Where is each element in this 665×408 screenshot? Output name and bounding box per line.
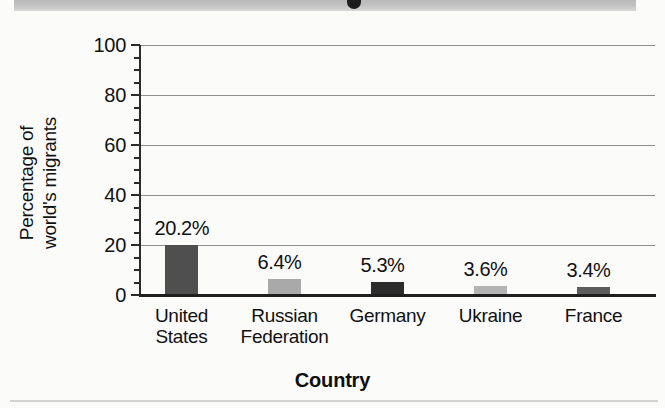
bar-value-label: 5.3% — [361, 255, 405, 275]
x-axis-category-label-line: Germany — [328, 305, 448, 326]
y-axis-tick-major — [131, 194, 140, 196]
y-axis-tick-minor — [134, 82, 140, 84]
y-axis-tick-minor — [134, 219, 140, 221]
y-axis-tick-minor — [134, 132, 140, 134]
y-axis-tick-minor — [134, 232, 140, 234]
y-axis-tick-minor — [134, 257, 140, 259]
y-axis-tick-major — [131, 244, 140, 246]
bar-value-label: 3.6% — [464, 259, 508, 279]
y-axis-tick-label: 80 — [86, 85, 126, 105]
bar[interactable] — [165, 245, 198, 296]
y-axis-tick-minor — [134, 57, 140, 59]
y-axis-tick-label: 100 — [86, 35, 126, 55]
bar-chart: 020406080100 Percentage ofworld's migran… — [0, 0, 665, 408]
y-axis-tick-minor — [134, 107, 140, 109]
x-axis-category-label: Ukraine — [431, 305, 551, 326]
bar[interactable] — [371, 282, 404, 295]
gridline — [140, 95, 655, 96]
y-axis-tick-label: 0 — [86, 285, 126, 305]
x-axis-category-label: RussianFederation — [225, 305, 345, 347]
y-axis-tick-minor — [134, 69, 140, 71]
y-axis-tick-minor — [134, 169, 140, 171]
x-axis-category-label-line: United — [122, 305, 242, 326]
y-axis-tick-minor — [134, 269, 140, 271]
y-axis-tick-minor — [134, 282, 140, 284]
x-axis-category-label-line: Russian — [225, 305, 345, 326]
gridline — [140, 45, 655, 46]
y-axis-tick-minor — [134, 119, 140, 121]
y-axis-tick-label: 60 — [86, 135, 126, 155]
x-axis-category-label: Germany — [328, 305, 448, 326]
y-axis-tick-major — [131, 144, 140, 146]
x-axis-category-label: France — [534, 305, 654, 326]
x-axis-category-label: UnitedStates — [122, 305, 242, 347]
y-axis-tick-labels: 020406080100 — [80, 0, 126, 408]
gridline — [140, 145, 655, 146]
y-axis-title-line: world's migrants — [38, 68, 61, 298]
y-axis-tick-label: 40 — [86, 185, 126, 205]
x-axis-category-label-line: France — [534, 305, 654, 326]
gridline — [140, 245, 655, 246]
y-axis-title: Percentage ofworld's migrants — [15, 68, 61, 298]
bar-value-label: 3.4% — [567, 260, 611, 280]
y-axis-tick-label: 20 — [86, 235, 126, 255]
bar-value-label: 6.4% — [258, 252, 302, 272]
bar-value-label: 20.2% — [155, 218, 210, 238]
x-axis-category-label-line: States — [122, 326, 242, 347]
bar[interactable] — [268, 279, 301, 295]
y-axis-tick-major — [131, 94, 140, 96]
y-axis-tick-minor — [134, 182, 140, 184]
x-axis-category-label-line: Ukraine — [431, 305, 551, 326]
x-axis-line — [139, 294, 656, 297]
x-axis-category-label-line: Federation — [225, 326, 345, 347]
y-axis-title-line: Percentage of — [15, 68, 38, 298]
y-axis-tick-minor — [134, 157, 140, 159]
y-axis-tick-major — [131, 44, 140, 46]
y-axis-tick-minor — [134, 207, 140, 209]
gridline — [140, 195, 655, 196]
x-axis-title: Country — [0, 369, 665, 392]
y-axis-tick-major — [131, 294, 140, 296]
